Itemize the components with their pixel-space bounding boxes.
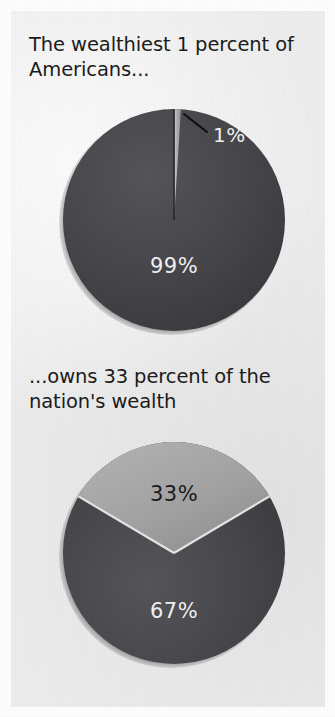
pie-one-label-99: 99%: [150, 254, 198, 278]
infographic-root: The wealthiest 1 percent of Americans...: [0, 0, 335, 717]
pie-one-svg: 1% 99%: [50, 96, 300, 346]
pie-two-svg: 33% 67%: [50, 429, 300, 679]
pie-one-label-1: 1%: [213, 123, 246, 147]
pie-chart-wealth-share: 33% 67%: [50, 429, 300, 679]
pie-chart-population-share: 1% 99%: [50, 96, 300, 346]
caption-top: The wealthiest 1 percent of Americans...: [29, 32, 309, 82]
caption-bottom: ...owns 33 percent of the nation's wealt…: [29, 364, 309, 414]
pie-two-label-33: 33%: [150, 482, 198, 506]
pie-two-label-67: 67%: [150, 599, 198, 623]
